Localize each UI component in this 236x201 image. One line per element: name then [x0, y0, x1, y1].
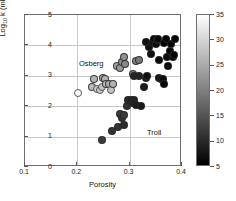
data-point: [135, 56, 143, 64]
data-point: [140, 83, 148, 91]
y-axis-title-base: Log: [0, 24, 7, 37]
colorbar-tick: [210, 115, 214, 116]
x-axis-tick-label: 0.1: [9, 168, 39, 175]
colorbar-tick: [210, 166, 214, 167]
y-axis-title-rest: k (mD): [0, 0, 7, 18]
colorbar-tick-label: 30: [216, 36, 224, 43]
y-axis-tick: [24, 14, 28, 15]
data-point: [147, 50, 155, 58]
x-axis-tick-label: 0.2: [61, 168, 91, 175]
annotation-osberg: Osberg: [79, 59, 104, 68]
x-axis-title: Porosity: [24, 180, 181, 189]
figure: Log10 k (mD) Porosity 0123450.10.20.30.4…: [0, 0, 236, 201]
y-axis-tick-label: 1: [32, 132, 52, 139]
plot-area: [24, 14, 181, 166]
data-point: [109, 80, 117, 88]
y-axis-tick: [24, 44, 28, 45]
colorbar-tick-label: 10: [216, 137, 224, 144]
data-point: [143, 72, 151, 80]
data-point: [74, 89, 82, 97]
y-axis-tick: [24, 166, 28, 167]
colorbar-tick: [210, 39, 214, 40]
data-point: [164, 62, 172, 70]
data-point: [98, 136, 106, 144]
colorbar-tick: [210, 90, 214, 91]
colorbar-tick: [210, 141, 214, 142]
y-axis-title: Log10 k (mD): [0, 0, 8, 55]
y-axis-title-subscript: 10: [2, 18, 8, 24]
colorbar-tick-label: 15: [216, 112, 224, 119]
x-axis-tick: [76, 162, 77, 166]
x-axis-tick-label: 0.4: [166, 168, 196, 175]
data-point: [120, 111, 128, 119]
y-axis-tick-label: 5: [32, 11, 52, 18]
x-axis-tick: [129, 162, 130, 166]
y-axis-tick: [24, 136, 28, 137]
x-axis-tick: [181, 162, 182, 166]
y-axis-tick: [24, 105, 28, 106]
x-axis-tick-label: 0.3: [114, 168, 144, 175]
annotation-troll: Troll: [147, 128, 161, 137]
colorbar-tick-label: 5: [216, 163, 220, 170]
data-point: [171, 35, 179, 43]
data-point: [137, 102, 145, 110]
colorbar: [196, 14, 210, 166]
colorbar-tick-label: 25: [216, 61, 224, 68]
y-axis-tick: [24, 75, 28, 76]
x-axis-tick: [24, 162, 25, 166]
data-point: [170, 51, 178, 59]
gridline-vertical: [130, 15, 131, 165]
data-point: [160, 80, 168, 88]
y-axis-tick-label: 4: [32, 41, 52, 48]
colorbar-tick-label: 35: [216, 11, 224, 18]
data-point: [120, 121, 128, 129]
y-axis-tick-label: 3: [32, 71, 52, 78]
data-point: [121, 60, 129, 68]
data-point: [90, 75, 98, 83]
colorbar-tick-label: 20: [216, 87, 224, 94]
colorbar-tick: [210, 65, 214, 66]
data-point: [155, 56, 163, 64]
colorbar-tick: [210, 14, 214, 15]
y-axis-tick-label: 2: [32, 102, 52, 109]
